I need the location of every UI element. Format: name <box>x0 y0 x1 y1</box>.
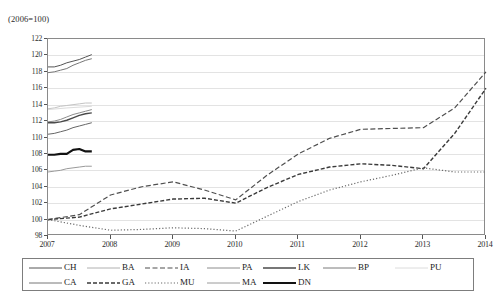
legend-label: MU <box>180 278 194 287</box>
legend-label: PA <box>242 263 252 272</box>
y-axis-tick-mark <box>44 54 47 55</box>
legend-item-mu[interactable]: MU <box>145 278 194 288</box>
legend-item-ba[interactable]: BA <box>87 263 134 273</box>
y-axis-tick-mark <box>44 71 47 72</box>
plot-area <box>47 38 485 235</box>
series-line-ia <box>48 72 486 220</box>
series-line-ga <box>48 88 486 219</box>
y-axis-tick-mark <box>44 202 47 203</box>
series-line-mu <box>48 168 486 231</box>
series-line-bp <box>48 166 92 172</box>
x-axis-tick-label: 2014 <box>465 240 497 249</box>
y-axis-tick-mark <box>44 137 47 138</box>
legend-swatch-pu-icon <box>395 263 428 273</box>
legend-label: DN <box>298 278 311 287</box>
series-line-ca <box>48 59 92 73</box>
legend-item-pu[interactable]: PU <box>395 263 441 273</box>
legend-row: CHBAIAPALKBPPU <box>23 260 473 275</box>
y-axis-tick-label: 118 <box>20 66 42 75</box>
legend-label: BP <box>358 263 369 272</box>
x-axis-tick-mark <box>47 235 48 239</box>
legend-label: CA <box>64 278 76 287</box>
y-axis-tick-mark <box>44 153 47 154</box>
legend-label: PU <box>430 263 441 272</box>
legend-label: IA <box>180 263 189 272</box>
legend-item-ca[interactable]: CA <box>29 278 76 288</box>
y-axis-tick-mark <box>44 186 47 187</box>
y-axis-tick-label: 104 <box>20 181 42 190</box>
legend-item-ma[interactable]: MA <box>207 278 256 288</box>
legend-label: MA <box>242 278 256 287</box>
legend-swatch-pa-icon <box>207 263 240 273</box>
y-axis-tick-label: 110 <box>20 132 42 141</box>
y-axis-tick-mark <box>44 219 47 220</box>
legend-swatch-ia-icon <box>145 263 178 273</box>
legend-label: LK <box>298 263 310 272</box>
legend-item-bp[interactable]: BP <box>323 263 369 273</box>
series-line-dn <box>48 149 92 155</box>
x-axis-tick-mark <box>360 235 361 239</box>
y-axis-tick-label: 100 <box>20 214 42 223</box>
y-axis-tick-label: 120 <box>20 50 42 59</box>
x-axis-tick-mark <box>422 235 423 239</box>
y-axis-tick-label: 114 <box>20 99 42 108</box>
chart-root: (2006=100) 98100102104106108110112114116… <box>0 0 497 300</box>
y-axis-tick-label: 116 <box>20 83 42 92</box>
y-axis-tick-label: 122 <box>20 34 42 43</box>
series-line-ma <box>48 123 92 134</box>
legend-swatch-ba-icon <box>87 263 120 273</box>
y-axis-tick-mark <box>44 87 47 88</box>
x-axis-tick-label: 2012 <box>340 240 380 249</box>
legend-swatch-ca-icon <box>29 278 62 288</box>
series-layer <box>48 39 486 236</box>
legend-item-ia[interactable]: IA <box>145 263 189 273</box>
x-axis-tick-label: 2007 <box>27 240 67 249</box>
legend-item-lk[interactable]: LK <box>263 263 310 273</box>
legend-item-ga[interactable]: GA <box>87 278 135 288</box>
legend-swatch-dn-icon <box>263 278 296 288</box>
x-axis-tick-label: 2011 <box>277 240 317 249</box>
chart-subtitle: (2006=100) <box>8 14 49 24</box>
legend-swatch-lk-icon <box>263 263 296 273</box>
x-axis-tick-mark <box>235 235 236 239</box>
y-axis-tick-label: 106 <box>20 165 42 174</box>
x-axis-tick-mark <box>172 235 173 239</box>
legend-label: GA <box>122 278 135 287</box>
y-axis-tick-mark <box>44 104 47 105</box>
x-axis-tick-label: 2008 <box>90 240 130 249</box>
legend-row: CAGAMUMADN <box>23 275 473 290</box>
y-axis-tick-mark <box>44 120 47 121</box>
x-axis-tick-mark <box>297 235 298 239</box>
legend-item-pa[interactable]: PA <box>207 263 252 273</box>
legend-label: CH <box>64 263 76 272</box>
y-axis-tick-label: 98 <box>20 231 42 240</box>
series-line-pa <box>48 110 92 122</box>
legend-item-ch[interactable]: CH <box>29 263 76 273</box>
y-axis-tick-mark <box>44 38 47 39</box>
chart-legend: CHBAIAPALKBPPU CAGAMUMADN <box>22 258 474 291</box>
y-axis-tick-label: 102 <box>20 198 42 207</box>
legend-swatch-mu-icon <box>145 278 178 288</box>
y-axis-tick-mark <box>44 169 47 170</box>
legend-swatch-ma-icon <box>207 278 240 288</box>
legend-swatch-bp-icon <box>323 263 356 273</box>
x-axis-tick-label: 2010 <box>215 240 255 249</box>
legend-item-dn[interactable]: DN <box>263 278 311 288</box>
legend-swatch-ga-icon <box>87 278 120 288</box>
x-axis-tick-label: 2009 <box>152 240 192 249</box>
x-axis-tick-label: 2013 <box>402 240 442 249</box>
y-axis-tick-label: 108 <box>20 148 42 157</box>
x-axis-tick-mark <box>485 235 486 239</box>
x-axis-tick-mark <box>110 235 111 239</box>
legend-swatch-ch-icon <box>29 263 62 273</box>
legend-label: BA <box>122 263 134 272</box>
y-axis-tick-label: 112 <box>20 116 42 125</box>
